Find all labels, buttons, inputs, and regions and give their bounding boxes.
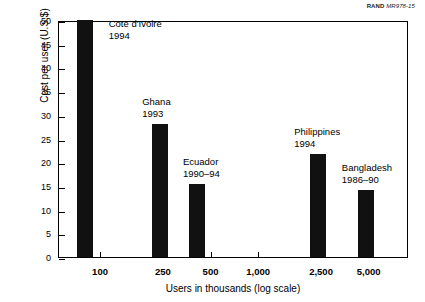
credit-organization: RAND [367, 3, 385, 9]
y-axis-tick-label: 35 [31, 88, 51, 97]
y-axis-tick [59, 212, 65, 213]
bar-annotation-years: 1990–94 [183, 168, 220, 180]
bar-annotation: Ghana1993 [142, 96, 171, 120]
y-axis-tick [59, 164, 65, 165]
y-axis-tick-label: 10 [31, 207, 51, 216]
x-axis-label: Users in thousands (log scale) [58, 283, 408, 294]
y-axis-tick-label: 25 [31, 136, 51, 145]
y-axis-tick [59, 93, 65, 94]
chart-page: RAND MR978-15 Cost per user (U.S.$) 0510… [0, 0, 425, 302]
bar-annotation-country: Bangladesh [342, 162, 392, 173]
x-axis-tick-label: 250 [155, 266, 171, 277]
y-axis-tick-label: 15 [31, 183, 51, 192]
credit-document-id: MR978-15 [386, 3, 415, 9]
y-axis-tick-label: 5 [31, 230, 51, 239]
bar-annotation-years: 1994 [109, 30, 162, 42]
x-axis-tick-label: 100 [92, 266, 108, 277]
bar [152, 124, 168, 257]
bar-annotation: Cote d'Ivoire1994 [109, 18, 162, 42]
x-axis-tick-label: 5,000 [357, 266, 381, 277]
y-axis-tick [59, 188, 65, 189]
bar-annotation: Bangladesh1986–90 [342, 162, 392, 186]
bar-annotation-years: 1994 [294, 138, 340, 150]
bar-annotation-country: Philippines [294, 126, 340, 137]
y-axis-tick [59, 46, 65, 47]
plot-area: 051015202530354045501002505001,0002,5005… [58, 21, 408, 258]
bar [189, 184, 205, 257]
y-axis-tick-label: 50 [31, 17, 51, 26]
bar [358, 190, 374, 257]
x-axis-tick-label: 1,000 [246, 266, 270, 277]
x-axis-tick-label: 500 [203, 266, 219, 277]
bar-annotation-country: Ecuador [183, 156, 218, 167]
y-axis-tick-label: 20 [31, 159, 51, 168]
bar-annotation: Ecuador1990–94 [183, 156, 220, 180]
y-axis-tick [59, 259, 65, 260]
bar-annotation-country: Cote d'Ivoire [109, 18, 162, 29]
y-axis-tick-label: 30 [31, 112, 51, 121]
bar-annotation-years: 1986–90 [342, 174, 392, 186]
x-axis-tick [258, 252, 259, 257]
y-axis-tick-label: 0 [31, 254, 51, 263]
bar-annotation-country: Ghana [142, 96, 171, 107]
y-axis-tick [59, 235, 65, 236]
y-axis-tick [59, 141, 65, 142]
y-axis-tick [59, 22, 65, 23]
bar-annotation: Philippines1994 [294, 126, 340, 150]
bar-annotation-years: 1993 [142, 108, 171, 120]
y-axis-tick-label: 45 [31, 41, 51, 50]
y-axis-tick [59, 69, 65, 70]
y-axis-tick [59, 117, 65, 118]
x-axis-tick [211, 252, 212, 257]
bar [310, 154, 326, 257]
y-axis-tick-label: 40 [31, 64, 51, 73]
bar [77, 20, 93, 257]
source-credit: RAND MR978-15 [367, 3, 415, 9]
x-axis-tick [100, 252, 101, 257]
x-axis-tick-label: 2,500 [309, 266, 333, 277]
